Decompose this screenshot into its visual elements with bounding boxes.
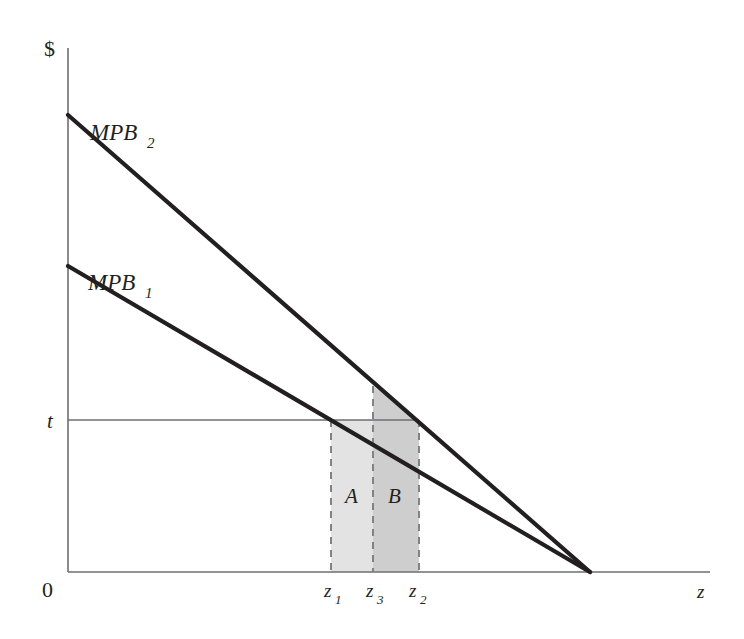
- tax-line-label: t: [47, 409, 54, 433]
- curve-label-mpb1-sub: 1: [145, 285, 153, 301]
- region-label-b: B: [388, 484, 401, 508]
- curve-label-mpb1-main: MPB: [87, 270, 135, 295]
- origin-label: 0: [42, 577, 53, 602]
- x-axis-label: z: [696, 581, 705, 602]
- figure-container: $ 0 z t MPB 2 MPB 1 z 1 z 3 z 2: [0, 0, 744, 639]
- curve-label-mpb2-sub: 2: [147, 135, 155, 151]
- mpb-tax-diagram: $ 0 z t MPB 2 MPB 1 z 1 z 3 z 2: [0, 0, 744, 639]
- tick-label-z1-sub: 1: [335, 592, 342, 607]
- tick-label-z3-sub: 3: [376, 592, 384, 607]
- tick-label-z1: z 1: [323, 580, 342, 607]
- tick-label-z1-main: z: [323, 580, 332, 601]
- curve-label-mpb2: MPB 2: [89, 120, 155, 151]
- tick-label-z2-main: z: [408, 580, 417, 601]
- region-label-a: A: [343, 484, 358, 508]
- curve-mpb2: [68, 115, 590, 572]
- tick-label-z2-sub: 2: [420, 592, 427, 607]
- tick-label-z2: z 2: [408, 580, 427, 607]
- curve-mpb1: [68, 266, 590, 572]
- tick-label-z3: z 3: [365, 580, 384, 607]
- y-axis-label: $: [44, 36, 55, 61]
- curve-label-mpb2-main: MPB: [89, 120, 137, 145]
- tick-label-z3-main: z: [365, 580, 374, 601]
